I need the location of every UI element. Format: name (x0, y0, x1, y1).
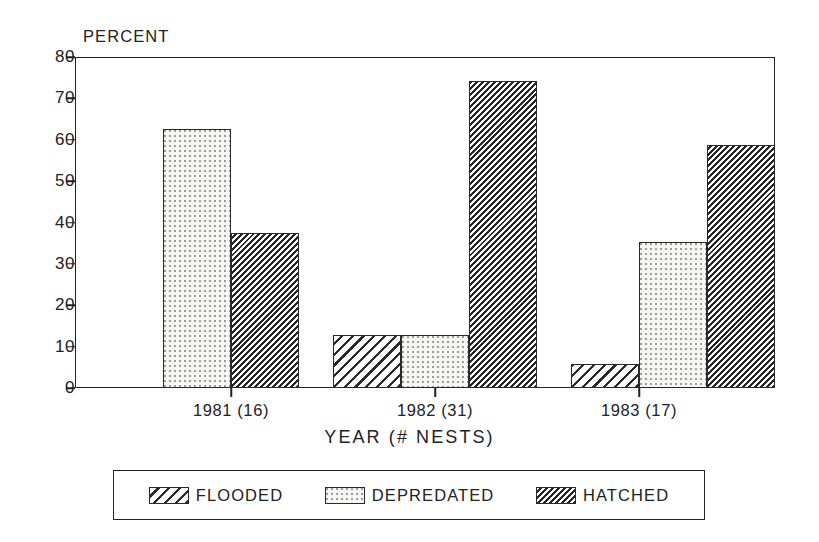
y-tick-label: 50 (35, 171, 75, 191)
x-tick-mark (434, 388, 436, 397)
y-tick-label: 10 (35, 337, 75, 357)
y-axis-title: PERCENT (83, 27, 170, 46)
y-tick-label: 0 (35, 378, 75, 398)
x-tick-label: 1981 (16) (193, 401, 269, 420)
legend-item-flooded: FLOODED (149, 486, 283, 505)
y-tick-label: 30 (35, 254, 75, 274)
bar-chart-figure: PERCENT 80 70 60 50 40 30 20 10 0 (0, 0, 819, 542)
bar-1981-hatched (231, 233, 299, 388)
bar-1982-depredated (401, 335, 469, 388)
x-axis-title: YEAR (# NESTS) (0, 427, 819, 448)
legend-item-hatched: HATCHED (536, 486, 669, 505)
x-tick-mark (230, 388, 232, 397)
legend-item-depredated: DEPREDATED (325, 486, 495, 505)
bar-1982-hatched (469, 81, 537, 388)
legend-label-hatched: HATCHED (583, 486, 669, 505)
chart-legend: FLOODED DEPREDATED HATCHED (113, 470, 705, 520)
x-tick-mark (638, 388, 640, 397)
legend-label-depredated: DEPREDATED (372, 486, 495, 505)
y-tick-label: 20 (35, 295, 75, 315)
y-tick-label: 40 (35, 213, 75, 233)
bar-1981-depredated (163, 129, 231, 388)
legend-swatch-hatched-icon (536, 487, 576, 504)
y-tick-label: 60 (35, 130, 75, 150)
bar-1983-depredated (639, 242, 707, 388)
bar-1982-flooded (333, 335, 401, 388)
bar-1983-flooded (571, 364, 639, 388)
x-tick-label: 1983 (17) (601, 401, 677, 420)
legend-swatch-flooded-icon (149, 487, 189, 504)
legend-label-flooded: FLOODED (196, 486, 283, 505)
bar-1983-hatched (707, 145, 775, 388)
x-tick-label: 1982 (31) (397, 401, 473, 420)
y-axis: 80 70 60 50 40 30 20 10 0 (0, 0, 75, 542)
bars-layer (75, 57, 775, 388)
y-tick-label: 70 (35, 88, 75, 108)
y-tick-label: 80 (35, 47, 75, 67)
legend-swatch-depredated-icon (325, 487, 365, 504)
